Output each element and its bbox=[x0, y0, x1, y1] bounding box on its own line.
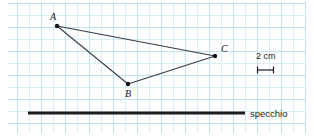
triangle-segments bbox=[57, 26, 215, 84]
segment-b-c bbox=[128, 56, 215, 84]
vertex-dots bbox=[55, 24, 217, 86]
point-label-c: C bbox=[221, 44, 228, 54]
point-a-dot bbox=[55, 24, 59, 28]
point-b-dot bbox=[126, 82, 130, 86]
point-label-a: A bbox=[50, 12, 56, 22]
mirror-label: specchio bbox=[250, 109, 288, 119]
scale-bar bbox=[257, 67, 274, 74]
geometry-figure: A B C 2 cm specchio bbox=[0, 0, 314, 136]
segment-a-c bbox=[57, 26, 215, 56]
point-c-dot bbox=[213, 54, 217, 58]
scale-bar-label: 2 cm bbox=[256, 52, 276, 61]
segment-a-b bbox=[57, 26, 128, 84]
point-label-b: B bbox=[125, 89, 131, 99]
